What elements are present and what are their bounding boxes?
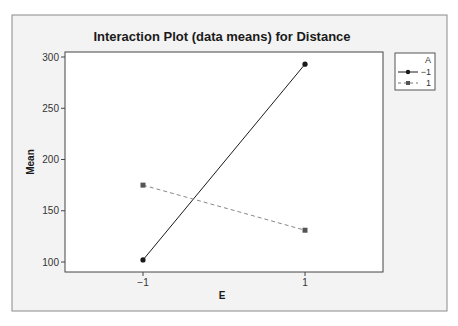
x-tick-label: −1 (137, 277, 149, 288)
y-tick-label: 150 (42, 205, 59, 216)
legend: A −1 1 (395, 53, 435, 90)
y-tick-label: 250 (42, 103, 59, 114)
interaction-plot: Interaction Plot (data means) for Distan… (0, 0, 458, 326)
legend-circle-marker-icon (406, 70, 410, 74)
circle-marker-icon (140, 257, 145, 262)
legend-entry-label: 1 (426, 78, 431, 88)
y-tick-label: 200 (42, 154, 59, 165)
circle-marker-icon (302, 62, 307, 67)
x-tick-label: 1 (302, 277, 308, 288)
chart-title: Interaction Plot (data means) for Distan… (93, 29, 350, 44)
y-tick-label: 100 (42, 257, 59, 268)
square-marker-icon (141, 183, 146, 188)
legend-square-marker-icon (406, 81, 410, 85)
x-axis-label: E (219, 290, 226, 301)
y-axis-label: Mean (25, 149, 36, 175)
legend-title: A (425, 55, 431, 65)
square-marker-icon (303, 228, 308, 233)
legend-entry-label: −1 (421, 67, 431, 77)
y-tick-label: 300 (42, 52, 59, 63)
